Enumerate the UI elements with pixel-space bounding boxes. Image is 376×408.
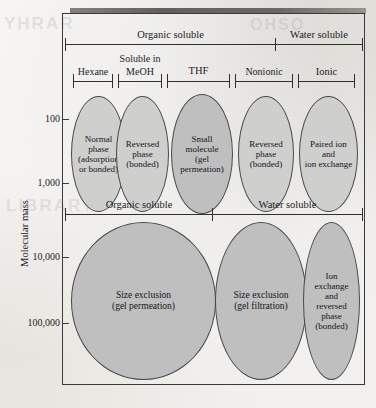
mode-line: ion exchange <box>305 159 353 169</box>
mode-line: and <box>305 149 353 159</box>
mode-line: (adsorption <box>78 154 119 164</box>
mode-ellipse-reversed-phase-organic: Reversed phase (bonded) <box>116 96 169 212</box>
mode-line: (bonded) <box>126 159 160 169</box>
diagram-plot-area: Organic soluble Water soluble Hexane Sol… <box>62 13 365 385</box>
mode-line: Normal <box>78 134 119 144</box>
solvent-tick-thf-left <box>167 74 168 88</box>
mode-line: Ion <box>315 271 349 281</box>
mode-line: molecule <box>180 144 223 154</box>
mode-line: phase <box>315 311 349 321</box>
solvent-label-meoh-line1: Soluble in <box>111 53 169 64</box>
mode-line: (gel permeation) <box>112 301 175 312</box>
mode-line: Paired ion <box>305 139 353 149</box>
solvent-label-thf: THF <box>167 65 230 76</box>
mid-band-rule-organic <box>65 214 213 215</box>
top-band-label-organic-soluble: Organic soluble <box>65 29 276 40</box>
mode-ellipse-size-exclusion-gel-filtration: Size exclusion (gel filtration) <box>215 222 307 380</box>
mode-line: (bonded) <box>315 321 349 331</box>
mode-line: or bonded) <box>78 164 119 174</box>
mode-line: permeation) <box>180 164 223 174</box>
solvent-rule-hexane <box>73 81 113 82</box>
mode-line: and <box>315 291 349 301</box>
y-axis-title: Molecular mass <box>19 179 30 289</box>
mode-ellipse-ion-exchange-reversed-phase: Ion exchange and reversed phase (bonded) <box>303 222 360 380</box>
solvent-rule-meoh <box>118 81 162 82</box>
mid-band-label-water-soluble: Water soluble <box>212 199 363 210</box>
solvent-label-nonionic: Nonionic <box>235 66 293 77</box>
mid-band-rule-water <box>212 214 363 215</box>
mid-band-label-organic-soluble: Organic soluble <box>65 199 213 210</box>
mode-line: reversed <box>315 301 349 311</box>
solvent-label-ionic: Ionic <box>298 66 355 77</box>
solvent-rule-ionic <box>298 81 355 82</box>
mode-line: phase <box>126 149 160 159</box>
solvent-rule-nonionic <box>235 81 293 82</box>
mode-ellipse-size-exclusion-gel-permeation: Size exclusion (gel permeation) <box>71 222 216 380</box>
mode-line: phase <box>249 149 283 159</box>
y-tick-label-100: 100 <box>0 113 60 124</box>
mode-line: Size exclusion <box>233 290 288 301</box>
mode-line: exchange <box>315 281 349 291</box>
top-band-label-water-soluble: Water soluble <box>275 29 363 40</box>
top-band-rule-organic <box>65 44 276 45</box>
mode-line: (gel filtration) <box>233 301 288 312</box>
mode-line: (gel <box>180 154 223 164</box>
solvent-rule-thf <box>167 81 230 82</box>
mode-ellipse-small-molecule-gel-permeation: Small molecule (gel permeation) <box>171 94 233 214</box>
y-tick-label-100000: 100,000 <box>0 317 60 328</box>
mode-ellipse-reversed-phase-nonionic: Reversed phase (bonded) <box>238 96 294 212</box>
y-tick-label-1000: 1,000 <box>0 177 60 188</box>
mode-line: Size exclusion <box>112 290 175 301</box>
mode-line: Small <box>180 134 223 144</box>
solvent-tick-thf-right <box>229 74 230 88</box>
mode-ellipse-paired-ion-exchange: Paired ion and ion exchange <box>299 96 358 212</box>
mode-line: Reversed <box>126 139 160 149</box>
mode-line: Reversed <box>249 139 283 149</box>
top-band-rule-water <box>275 44 363 45</box>
solvent-label-meoh-line2: MeOH <box>118 66 162 77</box>
solvent-label-hexane: Hexane <box>73 66 113 77</box>
y-tick-label-10000: 10,000 <box>0 251 60 262</box>
mode-line: phase <box>78 144 119 154</box>
mode-line: (bonded) <box>249 159 283 169</box>
